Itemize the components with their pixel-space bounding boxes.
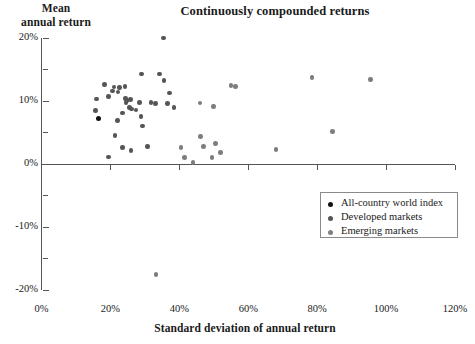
data-point xyxy=(139,114,144,119)
data-point xyxy=(198,134,203,139)
data-point xyxy=(134,108,139,113)
data-point xyxy=(123,84,128,89)
legend-item: Developed markets xyxy=(321,212,459,226)
y-tick-minor xyxy=(43,195,48,196)
y-tick-major xyxy=(43,164,49,165)
data-point xyxy=(198,101,203,106)
chart-legend: All-country world indexDeveloped markets… xyxy=(320,192,458,238)
data-point xyxy=(368,77,373,82)
data-point xyxy=(161,36,166,41)
x-tick-label: 100% xyxy=(364,303,408,314)
data-point xyxy=(137,100,142,105)
data-point xyxy=(218,150,223,155)
data-point xyxy=(110,89,115,94)
y-tick-major xyxy=(43,38,49,39)
data-point xyxy=(106,155,111,160)
x-axis-title: Standard deviation of annual return xyxy=(120,322,370,334)
legend-marker-icon xyxy=(328,216,333,221)
data-point xyxy=(153,101,158,106)
data-point xyxy=(167,91,172,96)
data-point xyxy=(213,141,218,146)
data-point xyxy=(201,144,206,149)
y-tick-major xyxy=(43,290,49,291)
legend-marker-icon xyxy=(328,202,333,207)
data-point xyxy=(145,144,150,149)
x-tick xyxy=(455,165,456,170)
y-tick-minor xyxy=(43,132,48,133)
data-point xyxy=(113,133,118,138)
legend-label: Developed markets xyxy=(341,211,422,222)
data-point xyxy=(211,104,216,109)
x-tick xyxy=(110,165,111,170)
data-point xyxy=(157,72,162,77)
data-point xyxy=(233,84,238,89)
y-tick-label: -20% xyxy=(0,283,38,294)
data-point xyxy=(129,148,134,153)
x-tick xyxy=(41,165,42,170)
data-point xyxy=(310,75,315,80)
x-tick-label: 80% xyxy=(295,303,339,314)
data-point xyxy=(106,94,111,99)
x-tick xyxy=(386,165,387,170)
y-tick-minor xyxy=(43,69,48,70)
data-point xyxy=(172,105,177,110)
plot-area: 20%10%0%-10%-20%0%20%40%60%80%100%120% xyxy=(0,0,475,344)
x-tick-label: 0% xyxy=(20,303,64,314)
data-point xyxy=(120,111,125,116)
data-point xyxy=(182,155,187,160)
data-point xyxy=(94,97,99,102)
y-tick-minor xyxy=(43,258,48,259)
data-point xyxy=(154,272,159,277)
x-tick xyxy=(179,165,180,170)
x-tick-label: 20% xyxy=(88,303,132,314)
data-point xyxy=(162,78,167,83)
data-point xyxy=(96,116,101,121)
x-tick-label: 60% xyxy=(226,303,270,314)
data-point xyxy=(128,97,133,102)
data-point xyxy=(179,145,184,150)
y-tick-label: -10% xyxy=(0,220,38,231)
x-tick-label: 120% xyxy=(433,303,475,314)
y-tick-label: 10% xyxy=(0,94,38,105)
legend-item: All-country world index xyxy=(321,198,459,212)
data-point xyxy=(102,82,107,87)
y-tick-label: 0% xyxy=(0,157,38,168)
data-point xyxy=(120,145,125,150)
data-point xyxy=(210,155,215,160)
y-tick-major xyxy=(43,227,49,228)
data-point xyxy=(330,129,335,134)
legend-item: Emerging markets xyxy=(321,226,459,240)
x-tick xyxy=(317,165,318,170)
scatter-chart-figure: Mean annual return Continuously compound… xyxy=(0,0,475,344)
data-point xyxy=(116,90,121,95)
data-point xyxy=(115,118,120,123)
data-point xyxy=(274,147,279,152)
y-tick-major xyxy=(43,101,49,102)
legend-label: Emerging markets xyxy=(341,225,418,236)
data-point xyxy=(117,85,122,90)
legend-label: All-country world index xyxy=(341,197,443,208)
data-point xyxy=(112,85,117,90)
x-tick-label: 40% xyxy=(157,303,201,314)
y-tick-label: 20% xyxy=(0,31,38,42)
data-point xyxy=(140,124,145,129)
x-tick xyxy=(248,165,249,170)
data-point xyxy=(93,108,98,113)
data-point xyxy=(165,101,170,106)
legend-marker-icon xyxy=(328,230,333,235)
data-point xyxy=(139,72,144,77)
